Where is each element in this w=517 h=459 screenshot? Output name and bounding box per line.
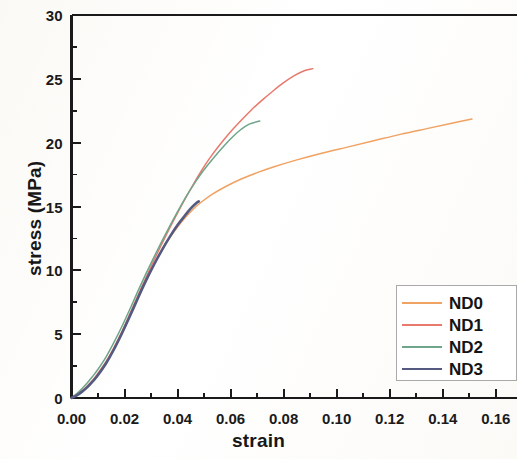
legend-item-nd0[interactable]: ND0 bbox=[402, 292, 483, 314]
x-tick-label: 0.12 bbox=[375, 410, 404, 427]
x-tick-label: 0.14 bbox=[428, 410, 457, 427]
legend-swatch-nd2 bbox=[402, 346, 442, 348]
legend-swatch-nd1 bbox=[402, 324, 442, 326]
y-tick-label: 20 bbox=[46, 134, 63, 151]
legend-label: ND3 bbox=[449, 361, 483, 378]
x-tick-label: 0.06 bbox=[216, 410, 245, 427]
y-tick-label: 15 bbox=[46, 198, 63, 215]
legend-label: ND2 bbox=[449, 339, 483, 356]
legend-label: ND1 bbox=[449, 317, 483, 334]
x-tick-label: 0.00 bbox=[57, 410, 86, 427]
legend-label: ND0 bbox=[449, 295, 483, 312]
x-tick-label: 0.02 bbox=[110, 410, 139, 427]
legend-item-nd3[interactable]: ND3 bbox=[402, 358, 483, 380]
y-tick-label: 25 bbox=[46, 70, 63, 87]
stress-strain-figure: 051015202530 0.000.020.040.060.080.100.1… bbox=[0, 0, 517, 459]
y-tick-label: 10 bbox=[46, 262, 63, 279]
series-line-nd3 bbox=[72, 201, 199, 398]
x-axis-title: strain bbox=[0, 430, 517, 452]
x-tick-label: 0.10 bbox=[322, 410, 351, 427]
y-axis-title: stress (MPa) bbox=[24, 161, 46, 276]
legend-swatch-nd3 bbox=[402, 368, 442, 370]
legend-item-nd1[interactable]: ND1 bbox=[402, 314, 483, 336]
legend-swatch-nd0 bbox=[402, 302, 442, 304]
series-line-nd1 bbox=[72, 69, 313, 398]
legend[interactable]: ND0ND1ND2ND3 bbox=[396, 285, 517, 381]
x-tick-label: 0.08 bbox=[269, 410, 298, 427]
x-tick-label: 0.16 bbox=[481, 410, 510, 427]
plot-canvas bbox=[0, 0, 517, 459]
y-tick-label: 30 bbox=[46, 7, 63, 24]
x-tick-label: 0.04 bbox=[163, 410, 192, 427]
y-tick-label: 5 bbox=[54, 326, 62, 343]
series-line-nd2 bbox=[72, 121, 260, 398]
legend-item-nd2[interactable]: ND2 bbox=[402, 336, 483, 358]
y-tick-label: 0 bbox=[54, 390, 62, 407]
